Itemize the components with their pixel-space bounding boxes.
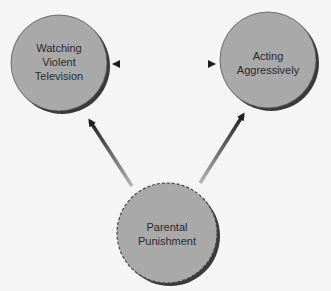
- node-acting-aggressively: Acting Aggressively: [220, 12, 319, 111]
- edge-punish-aggr: [200, 115, 243, 183]
- node-label-line: Punishment: [138, 235, 196, 247]
- node-label-line: Aggressively: [237, 64, 300, 76]
- edge-punish-tv: [90, 121, 132, 186]
- diagram-svg: Watching Violent Television Acting Aggre…: [0, 0, 331, 291]
- arrow-punish-to-aggr: [200, 115, 243, 183]
- node-label-line: Parental: [147, 221, 188, 233]
- node-label-line: Watching: [36, 42, 81, 54]
- node-label-line: Violent: [42, 56, 75, 68]
- node-label-line: Television: [35, 70, 83, 82]
- node-label-line: Acting: [253, 50, 284, 62]
- diagram-canvas: Watching Violent Television Acting Aggre…: [0, 0, 331, 291]
- arrow-punish-to-tv: [90, 121, 132, 186]
- node-circle-dashed: [117, 183, 217, 283]
- node-parental-punishment: Parental Punishment: [117, 183, 220, 286]
- node-watching-violent-television: Watching Violent Television: [11, 15, 110, 114]
